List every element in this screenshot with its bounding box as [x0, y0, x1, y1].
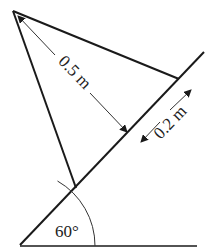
lower-rope: [13, 11, 76, 188]
incline-line: [20, 52, 204, 245]
label-short-distance: 0.2 m: [150, 102, 191, 143]
diagram-canvas: 0.5 m 0.2 m 60°: [0, 0, 216, 252]
label-angle: 60°: [55, 222, 79, 241]
upper-rope: [13, 11, 179, 79]
distance-arrow-long: [18, 16, 55, 55]
distance-arrow-long-lower: [90, 93, 127, 132]
incline-diagram: 0.5 m 0.2 m 60°: [0, 0, 216, 252]
label-long-distance: 0.5 m: [55, 52, 96, 93]
